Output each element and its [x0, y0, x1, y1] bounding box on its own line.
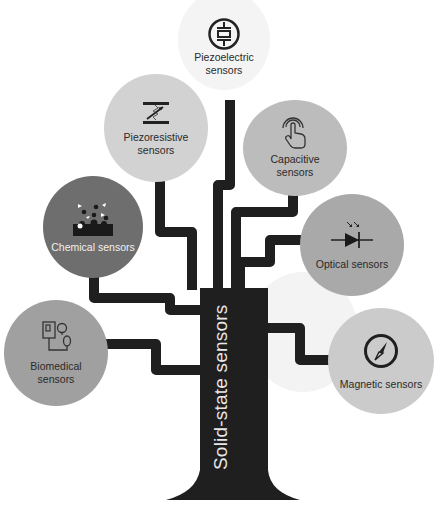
node-piezoresistive: Piezoresistive sensors	[104, 74, 208, 182]
variable-resistor-icon	[141, 99, 171, 127]
molecules-icon	[70, 200, 116, 238]
node-label: sensors	[206, 64, 243, 77]
node-label: Chemical sensors	[51, 241, 134, 254]
piezo-crystal-icon	[207, 17, 241, 51]
photodiode-icon	[329, 220, 375, 250]
sensor-tree-diagram: Piezoelectric sensors Piezoresistive sen…	[0, 0, 437, 508]
node-label: Magnetic sensors	[340, 378, 422, 391]
node-magnetic: Magnetic sensors	[328, 308, 434, 414]
node-capacitive: Capacitive sensors	[243, 100, 347, 196]
node-label: Biomedical	[30, 360, 81, 373]
compass-icon	[362, 332, 400, 370]
node-label: sensors	[138, 144, 175, 157]
node-label: Capacitive	[270, 153, 319, 166]
blood-pressure-icon	[39, 320, 73, 354]
node-optical: Optical sensors	[300, 194, 404, 296]
node-chemical: Chemical sensors	[43, 176, 143, 278]
trunk-title: Solid-state sensors	[210, 305, 232, 470]
touch-hand-icon	[280, 117, 310, 151]
node-label: Optical sensors	[316, 258, 388, 271]
node-label: Piezoresistive	[124, 131, 189, 144]
node-label: Piezoelectric	[194, 51, 254, 64]
node-biomedical: Biomedical sensors	[4, 300, 108, 406]
node-label: sensors	[277, 166, 314, 179]
node-label: sensors	[38, 373, 75, 386]
